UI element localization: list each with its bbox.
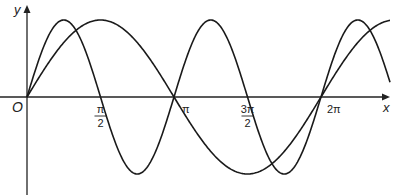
x-axis-label: x (382, 100, 390, 115)
y-axis-label: y (13, 2, 22, 17)
svg-text:2: 2 (244, 117, 250, 129)
x-tick-label: π2 (95, 103, 107, 129)
graph: y x O π2π3π22π (0, 0, 396, 195)
svg-text:2π: 2π (327, 103, 341, 115)
x-tick-label: 2π (327, 103, 341, 115)
y-axis-arrow-icon (24, 5, 31, 13)
axes (0, 5, 390, 195)
origin-label: O (12, 99, 23, 115)
svg-text:2: 2 (97, 117, 103, 129)
